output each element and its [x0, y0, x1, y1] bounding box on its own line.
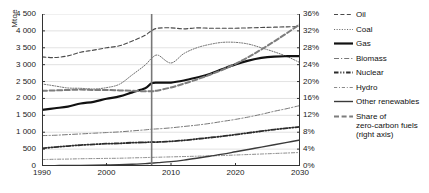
y-tick-right: 28%: [303, 44, 319, 52]
series-line-hydro: [42, 152, 300, 159]
legend-label-line: Nuclear: [356, 68, 384, 77]
x-tick: 2020: [227, 168, 245, 177]
y-tick-left: 1 000: [16, 128, 36, 136]
y-axis-left-ticks: 4 5004 0003 5003 0002 5002 0001 5001 000…: [0, 14, 38, 166]
legend-label-line: Gas: [356, 39, 371, 48]
legend-item-nuclear[interactable]: Nuclear: [334, 68, 429, 77]
legend-swatch-icon: [334, 54, 353, 63]
y-tick-right: 8%: [303, 128, 315, 136]
legend-swatch-icon: [334, 10, 353, 19]
y-tick-left: 500: [23, 145, 36, 153]
legend-label: Share ofzero-carbon fuels(right axis): [356, 112, 418, 139]
x-tick: 2010: [162, 168, 180, 177]
x-tick: 2000: [98, 168, 116, 177]
legend-label: Hydro: [356, 83, 377, 92]
x-tick: 2030: [291, 168, 309, 177]
legend-item-coal[interactable]: Coal: [334, 25, 429, 34]
legend-swatch-icon: [334, 39, 353, 48]
legend-label-line: Oil: [356, 10, 366, 19]
legend-item-gas[interactable]: Gas: [334, 39, 429, 48]
legend-label: Nuclear: [356, 68, 384, 77]
legend-item-biomass[interactable]: Biomass: [334, 54, 429, 63]
legend-label: Biomass: [356, 54, 387, 63]
y-tick-left: 4 500: [16, 10, 36, 18]
legend-item-hydro[interactable]: Hydro: [334, 83, 429, 92]
legend-label: Coal: [356, 25, 372, 34]
legend-swatch-icon: [334, 112, 353, 121]
y-tick-right: 24%: [303, 61, 319, 69]
legend-label: Gas: [356, 39, 371, 48]
legend-item-oil[interactable]: Oil: [334, 10, 429, 19]
x-axis-ticks: 19902000201020202030: [42, 168, 300, 180]
y-tick-left: 2 500: [16, 78, 36, 86]
y-tick-left: 4 000: [16, 27, 36, 35]
legend-label-line: Share of: [356, 112, 418, 121]
chart-legend: OilCoalGasBiomassNuclearHydroOther renew…: [334, 10, 429, 144]
y-tick-left: 2 000: [16, 94, 36, 102]
legend-label-line: Biomass: [356, 54, 387, 63]
y-axis-right-ticks: 36%32%28%24%20%16%12%8%4%0%: [303, 14, 337, 166]
legend-swatch-icon: [334, 25, 353, 34]
plot-area: [42, 14, 300, 166]
legend-item-share-of[interactable]: Share ofzero-carbon fuels(right axis): [334, 112, 429, 139]
y-tick-right: 12%: [303, 111, 319, 119]
legend-label-line: zero-carbon fuels: [356, 121, 418, 130]
legend-label-line: (right axis): [356, 130, 418, 139]
y-tick-right: 4%: [303, 145, 315, 153]
legend-swatch-icon: [334, 97, 353, 106]
legend-label-line: Hydro: [356, 83, 377, 92]
y-tick-right: 16%: [303, 94, 319, 102]
series-line-nuclear: [42, 127, 300, 149]
legend-swatch-icon: [334, 68, 353, 77]
legend-label: Other renewables: [356, 97, 419, 106]
y-tick-right: 36%: [303, 10, 319, 18]
legend-swatch-icon: [334, 83, 353, 92]
legend-item-other-renewables[interactable]: Other renewables: [334, 97, 429, 106]
chart-root: Mtoe 4 5004 0003 5003 0002 5002 0001 500…: [0, 0, 429, 193]
legend-label-line: Coal: [356, 25, 372, 34]
legend-label-line: Other renewables: [356, 97, 419, 106]
y-tick-left: 3 000: [16, 61, 36, 69]
y-tick-left: 1 500: [16, 111, 36, 119]
x-tick: 1990: [33, 168, 51, 177]
y-tick-left: 3 500: [16, 44, 36, 52]
legend-label: Oil: [356, 10, 366, 19]
series-line-gas: [42, 56, 300, 110]
chart-canvas: [42, 14, 300, 166]
y-tick-right: 20%: [303, 78, 319, 86]
series-line-other-renewables: [42, 140, 300, 166]
y-tick-right: 32%: [303, 27, 319, 35]
